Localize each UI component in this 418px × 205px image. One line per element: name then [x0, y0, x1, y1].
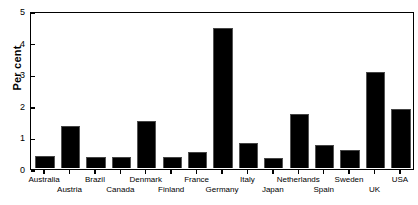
x-tick-mark [374, 170, 375, 174]
x-tick-mark [145, 170, 146, 174]
bar-australia [35, 156, 54, 167]
x-tick-label-netherlands: Netherlands [277, 175, 320, 184]
bar-series [32, 13, 412, 168]
x-tick-mark [69, 170, 70, 174]
x-tick-mark [196, 170, 197, 174]
y-tick-mark [31, 170, 35, 171]
bar-japan [264, 158, 283, 168]
x-tick-mark [247, 170, 248, 174]
bar-netherlands [290, 114, 309, 168]
x-tick-label-france: France [184, 175, 209, 184]
bar-italy [239, 143, 258, 167]
x-tick-mark [170, 170, 171, 174]
x-tick-label-denmark: Denmark [130, 175, 162, 184]
bar-brazil [86, 157, 105, 167]
x-tick-mark [120, 170, 121, 174]
x-tick-label-finland: Finland [158, 185, 184, 194]
x-tick-label-usa: USA [392, 175, 408, 184]
x-tick-mark [298, 170, 299, 174]
x-tick-label-germany: Germany [206, 185, 239, 194]
y-tick-label: 2 [20, 101, 25, 114]
x-tick-label-australia: Australia [29, 175, 60, 184]
bar-germany [213, 28, 232, 167]
x-tick-mark [221, 170, 222, 174]
bar-france [188, 152, 207, 168]
bar-denmark [137, 121, 156, 168]
x-tick-label-brazil: Brazil [85, 175, 105, 184]
x-tick-mark [94, 170, 95, 174]
bar-finland [163, 157, 182, 168]
x-tick-label-sweden: Sweden [335, 175, 364, 184]
bar-austria [61, 126, 80, 168]
y-tick-label: 4 [20, 38, 25, 51]
x-tick-label-austria: Austria [57, 185, 82, 194]
y-tick-label: 5 [20, 6, 25, 19]
bar-spain [315, 145, 334, 168]
y-tick-label: 0 [20, 164, 25, 177]
bar-uk [366, 72, 385, 168]
x-tick-mark [272, 170, 273, 174]
x-tick-label-japan: Japan [262, 185, 284, 194]
x-tick-mark [348, 170, 349, 174]
plot-area: 012345 [30, 12, 414, 170]
x-tick-mark [399, 170, 400, 174]
x-tick-label-uk: UK [369, 185, 380, 194]
y-tick-label: 3 [20, 69, 25, 82]
x-tick-mark [43, 170, 44, 174]
x-tick-label-spain: Spain [313, 185, 333, 194]
x-tick-label-italy: Italy [240, 175, 255, 184]
bar-sweden [340, 150, 359, 168]
y-tick-label: 1 [20, 132, 25, 145]
bar-usa [391, 109, 410, 168]
x-tick-label-canada: Canada [106, 185, 134, 194]
bar-chart-figure: Per cent 012345 AustraliaAustriaBrazilCa… [0, 0, 418, 205]
x-tick-mark [323, 170, 324, 174]
bar-canada [112, 157, 131, 168]
